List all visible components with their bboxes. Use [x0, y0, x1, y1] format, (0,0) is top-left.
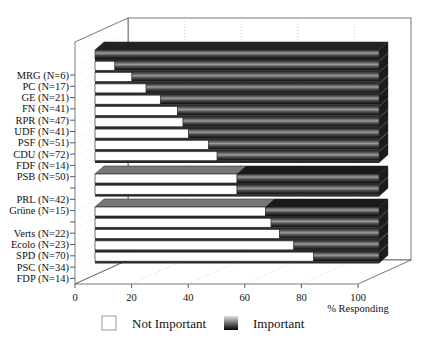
bar-not-important: [95, 73, 132, 82]
category-label: Verts (N=22): [14, 228, 70, 240]
bar-important: [160, 95, 379, 104]
bar-top-face-important: [237, 166, 388, 174]
bar-not-important: [95, 95, 160, 104]
category-label: FN (N=41): [22, 103, 70, 115]
bar-important: [189, 129, 379, 138]
bar-important: [314, 252, 379, 261]
legend-label-important: Important: [253, 316, 305, 331]
category-label: SPD (N=70): [16, 250, 69, 262]
bar-important: [183, 118, 379, 127]
bar-not-important: [95, 118, 183, 127]
x-tick-label: 40: [183, 292, 194, 303]
bar-not-important: [95, 174, 237, 183]
bar-not-important: [95, 230, 280, 239]
category-label: UDF (N=41): [14, 126, 69, 138]
category-label: RPR (N=47): [16, 115, 70, 127]
bar-not-important: [95, 61, 115, 70]
bar-not-important: [95, 218, 271, 227]
x-axis-title: % Responding: [327, 303, 389, 314]
bar-separator: [95, 59, 379, 61]
bars: [95, 42, 388, 264]
bar-important: [209, 140, 379, 149]
x-tick-label: 100: [350, 292, 366, 303]
category-label: PC (N=17): [23, 81, 70, 93]
category-label: PRL (N=42): [17, 194, 70, 206]
bar-not-important: [95, 207, 265, 216]
x-tick-label: 20: [126, 292, 137, 303]
legend-swatch-not-important: [102, 316, 116, 330]
legend: Not Important Important: [102, 316, 305, 331]
stacked-bar-chart-3d: MRG (N=6)PC (N=17)GE (N=21)FN (N=41)RPR …: [0, 0, 423, 346]
bar-important: [115, 61, 379, 70]
bar-important: [294, 241, 379, 250]
category-label: Grüne (N=15): [9, 205, 69, 217]
bar-separator: [95, 194, 379, 196]
category-label: PSB (N=50): [17, 171, 70, 183]
category-label: MRG (N=6): [17, 70, 70, 82]
category-labels: MRG (N=6)PC (N=17)GE (N=21)FN (N=41)RPR …: [9, 70, 75, 285]
bar-not-important: [95, 241, 294, 250]
bar-top-face: [95, 42, 388, 50]
x-tick-label: 60: [240, 292, 251, 303]
bar-not-important: [95, 185, 237, 194]
bar-important: [217, 152, 379, 161]
bar-important: [265, 207, 379, 216]
bar-not-important: [95, 107, 177, 116]
bar-important: [280, 230, 379, 239]
bar-separator: [95, 161, 379, 163]
bar-important: [95, 50, 379, 59]
x-tick-label: 0: [72, 292, 77, 303]
bar-important: [237, 174, 379, 183]
bar-separator: [95, 261, 379, 263]
legend-label-not-important: Not Important: [132, 316, 206, 331]
x-tick-label: 80: [296, 292, 307, 303]
bar-not-important: [95, 140, 209, 149]
bar-not-important: [95, 84, 146, 93]
bar-not-important: [95, 152, 217, 161]
category-label: PSC (N=34): [17, 262, 70, 274]
floor: [75, 260, 411, 284]
category-label: GE (N=21): [21, 92, 69, 104]
bar-important: [146, 84, 379, 93]
bar-not-important: [95, 129, 189, 138]
legend-swatch-important: [224, 316, 238, 330]
category-label: Ecolo (N=23): [11, 239, 70, 251]
x-axis: 020406080100: [72, 284, 366, 303]
bar-important: [132, 73, 379, 82]
bar-important: [271, 218, 379, 227]
bar-not-important: [95, 252, 314, 261]
category-label: FDF (N=14): [16, 160, 69, 172]
category-label: PSF (N=51): [18, 137, 70, 149]
bar-separator: [95, 70, 379, 72]
category-label: CDU (N=72): [13, 149, 69, 161]
category-label: FDP (N=14): [17, 273, 70, 285]
bar-top-face-important: [265, 199, 388, 207]
bar-important: [177, 107, 379, 116]
bar-important: [237, 185, 379, 194]
